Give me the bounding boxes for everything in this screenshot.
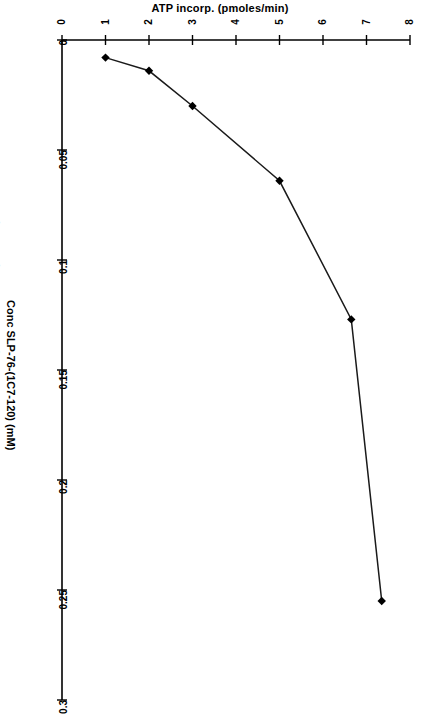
x-axis-tick-label: 3 <box>185 11 201 33</box>
x-axis-tick-label: 5 <box>272 11 288 33</box>
x-axis-tick-label: 6 <box>315 11 331 33</box>
data-marker <box>378 597 386 605</box>
x-axis-tick-label: 7 <box>359 11 375 33</box>
chart-figure: Figure 3. ATP incorporation in the kinas… <box>0 0 425 718</box>
y-axis-tick-label: 0.1 <box>57 260 71 294</box>
data-line <box>106 58 382 601</box>
x-axis-tick-label: 8 <box>402 11 418 33</box>
x-axis-tick-label: 1 <box>98 11 114 33</box>
y-axis-tick-label: 0.05 <box>57 150 71 184</box>
axes <box>62 40 410 700</box>
x-axis-tick-label: 2 <box>141 11 157 33</box>
data-markers <box>101 53 386 605</box>
data-marker <box>101 53 109 61</box>
x-axis-tick-label: 4 <box>228 11 244 33</box>
y-axis-tick-label: 0 <box>57 40 71 74</box>
chart-title: ATP incorp. (pmoles/min) <box>105 2 335 14</box>
x-axis-tick-label: 0 <box>54 11 70 33</box>
figure-caption-left: Figure 3. ATP incorporation in the kinas… <box>0 0 2 718</box>
y-axis-tick-label: 0.3 <box>57 700 71 718</box>
data-marker <box>347 315 355 323</box>
y-axis-title: Conc SLP-76-(1C7-120) (mM) <box>3 300 19 500</box>
y-axis-tick-label: 0.15 <box>57 370 71 404</box>
y-axis-tick-label: 0.25 <box>57 590 71 624</box>
y-axis-tick-label: 0.2 <box>57 480 71 514</box>
